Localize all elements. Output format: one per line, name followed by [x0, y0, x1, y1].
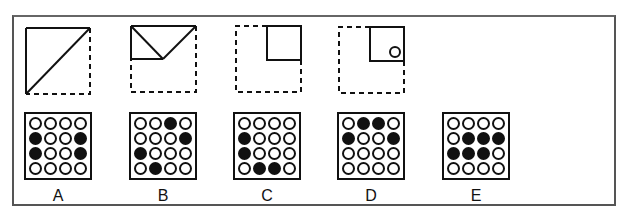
filled-hole-icon: [492, 132, 505, 145]
option-label-a: A: [24, 187, 92, 205]
option-grid-d[interactable]: [337, 112, 405, 180]
option-grid-c[interactable]: [233, 112, 301, 180]
empty-hole-icon: [342, 117, 355, 130]
filled-hole-icon: [357, 117, 370, 130]
punched-hole-icon: [390, 47, 400, 57]
empty-hole-icon: [164, 132, 177, 145]
empty-hole-icon: [447, 117, 460, 130]
empty-hole-icon: [149, 147, 162, 160]
empty-hole-icon: [342, 147, 355, 160]
empty-hole-icon: [59, 162, 72, 175]
empty-hole-icon: [387, 117, 400, 130]
empty-hole-icon: [238, 117, 251, 130]
filled-hole-icon: [462, 132, 475, 145]
empty-hole-icon: [253, 117, 266, 130]
empty-hole-icon: [462, 162, 475, 175]
empty-hole-icon: [164, 162, 177, 175]
empty-hole-icon: [149, 117, 162, 130]
option-grid-a[interactable]: [24, 112, 92, 180]
empty-hole-icon: [283, 162, 296, 175]
filled-hole-icon: [268, 162, 281, 175]
filled-hole-icon: [253, 162, 266, 175]
empty-hole-icon: [268, 117, 281, 130]
empty-hole-icon: [462, 117, 475, 130]
filled-hole-icon: [238, 132, 251, 145]
empty-hole-icon: [238, 162, 251, 175]
empty-hole-icon: [372, 162, 385, 175]
empty-hole-icon: [179, 147, 192, 160]
option-label-d: D: [337, 187, 405, 205]
empty-hole-icon: [492, 162, 505, 175]
empty-hole-icon: [59, 132, 72, 145]
empty-hole-icon: [44, 147, 57, 160]
filled-hole-icon: [372, 117, 385, 130]
fold-step-4: [337, 25, 407, 97]
filled-hole-icon: [447, 147, 460, 160]
filled-hole-icon: [477, 132, 490, 145]
empty-hole-icon: [492, 117, 505, 130]
filled-hole-icon: [477, 147, 490, 160]
empty-hole-icon: [179, 117, 192, 130]
empty-hole-icon: [59, 147, 72, 160]
empty-hole-icon: [29, 117, 42, 130]
empty-hole-icon: [342, 162, 355, 175]
option-label-c: C: [233, 187, 301, 205]
empty-hole-icon: [283, 147, 296, 160]
empty-hole-icon: [268, 132, 281, 145]
empty-hole-icon: [134, 117, 147, 130]
empty-hole-icon: [283, 117, 296, 130]
empty-hole-icon: [74, 162, 87, 175]
filled-hole-icon: [74, 132, 87, 145]
empty-hole-icon: [268, 147, 281, 160]
filled-hole-icon: [342, 132, 355, 145]
option-label-e: E: [442, 187, 510, 205]
empty-hole-icon: [372, 147, 385, 160]
empty-hole-icon: [164, 147, 177, 160]
empty-hole-icon: [44, 162, 57, 175]
fold-step-1: [24, 26, 92, 96]
option-grid-b[interactable]: [129, 112, 197, 180]
empty-hole-icon: [59, 117, 72, 130]
empty-hole-icon: [283, 132, 296, 145]
empty-hole-icon: [492, 147, 505, 160]
empty-hole-icon: [29, 162, 42, 175]
empty-hole-icon: [477, 117, 490, 130]
option-grid-e[interactable]: [442, 112, 510, 180]
empty-hole-icon: [447, 132, 460, 145]
empty-hole-icon: [387, 162, 400, 175]
filled-hole-icon: [462, 147, 475, 160]
empty-hole-icon: [387, 147, 400, 160]
empty-hole-icon: [357, 162, 370, 175]
empty-hole-icon: [74, 117, 87, 130]
empty-hole-icon: [253, 147, 266, 160]
empty-hole-icon: [372, 132, 385, 145]
filled-hole-icon: [29, 132, 42, 145]
filled-hole-icon: [238, 147, 251, 160]
filled-hole-icon: [74, 147, 87, 160]
empty-hole-icon: [134, 132, 147, 145]
empty-hole-icon: [44, 117, 57, 130]
empty-hole-icon: [44, 132, 57, 145]
empty-hole-icon: [134, 162, 147, 175]
filled-hole-icon: [29, 147, 42, 160]
empty-hole-icon: [477, 162, 490, 175]
empty-hole-icon: [253, 132, 266, 145]
puzzle-frame: [12, 15, 616, 206]
fold-step-3: [234, 24, 304, 96]
empty-hole-icon: [357, 132, 370, 145]
filled-hole-icon: [164, 117, 177, 130]
empty-hole-icon: [447, 162, 460, 175]
option-label-b: B: [129, 187, 197, 205]
fold-step-2: [129, 24, 199, 94]
filled-hole-icon: [387, 132, 400, 145]
empty-hole-icon: [149, 132, 162, 145]
filled-hole-icon: [134, 147, 147, 160]
empty-hole-icon: [179, 162, 192, 175]
filled-hole-icon: [149, 162, 162, 175]
empty-hole-icon: [357, 147, 370, 160]
filled-hole-icon: [179, 132, 192, 145]
